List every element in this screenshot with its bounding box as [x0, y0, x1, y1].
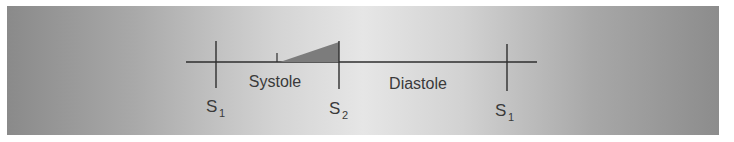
crescendo-murmur-shape — [280, 42, 339, 62]
svg-text:S: S — [206, 97, 217, 116]
s2-label: S 2 — [329, 99, 348, 121]
diastole-label: Diastole — [389, 75, 447, 92]
svg-text:2: 2 — [342, 109, 348, 121]
cardiac-cycle-diagram: Systole Diastole S 1 S 2 S 1 — [0, 0, 734, 142]
s1-label-first: S 1 — [206, 97, 225, 119]
s1-label-second: S 1 — [495, 101, 514, 123]
svg-text:1: 1 — [508, 111, 514, 123]
svg-text:S: S — [329, 99, 340, 118]
svg-text:S: S — [495, 101, 506, 120]
systole-label: Systole — [249, 73, 302, 90]
svg-text:1: 1 — [219, 107, 225, 119]
